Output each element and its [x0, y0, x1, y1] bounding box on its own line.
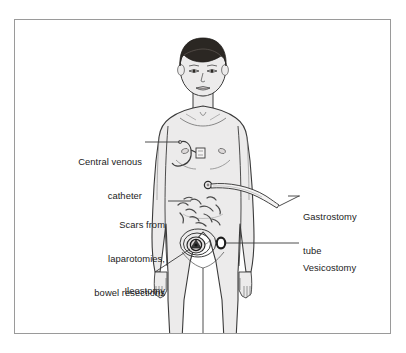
- vesicostomy-stoma: [217, 238, 225, 249]
- label-scars-line1: Scars from: [94, 219, 165, 230]
- label-vesicostomy-line1: Vesicostomy: [303, 262, 356, 273]
- leader-line-gastrostomy-tube: [279, 196, 299, 206]
- label-ileostomy: Ileostomy: [124, 262, 165, 319]
- label-ileostomy-line1: Ileostomy: [124, 285, 165, 296]
- label-central-venous-catheter-line1: Central venous: [78, 156, 142, 167]
- label-gastrostomy-tube-line1: Gastrostomy: [303, 211, 357, 222]
- patient-body-illustration: [0, 0, 406, 353]
- head: [178, 38, 229, 97]
- medical-illustration-figure: Central venous catheter Scars from lapar…: [0, 0, 406, 353]
- right-hand: [239, 272, 252, 298]
- label-vesicostomy: Vesicostomy: [303, 239, 356, 296]
